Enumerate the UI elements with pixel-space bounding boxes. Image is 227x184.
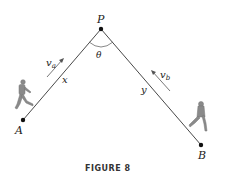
walking-woman-icon: [189, 102, 207, 132]
point-p: [99, 27, 103, 31]
label-b: B: [197, 149, 206, 162]
label-p: P: [96, 13, 105, 26]
angle-theta-arc: [89, 42, 113, 47]
label-va: va: [46, 57, 56, 70]
label-theta: θ: [96, 50, 102, 60]
point-a: [21, 118, 25, 122]
label-y: y: [140, 84, 147, 95]
label-x: x: [62, 74, 68, 85]
figure-caption: FIGURE 8: [85, 164, 130, 173]
label-a: A: [14, 124, 23, 137]
point-b: [199, 143, 203, 147]
segment-pb: [101, 29, 201, 145]
walking-man-icon: [15, 80, 33, 109]
diagram-canvas: P A B θ x y va vb FIGURE 8: [0, 0, 227, 184]
label-vb: vb: [160, 69, 171, 82]
